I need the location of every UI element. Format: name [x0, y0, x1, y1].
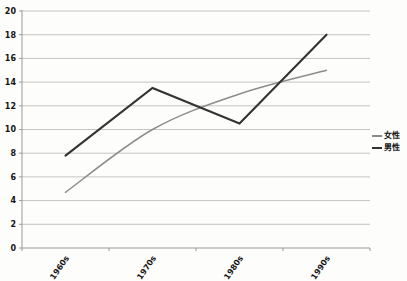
chart-window: 024681012141618201960s1970s1980s1990s 女性…: [0, 0, 407, 281]
svg-text:10: 10: [5, 125, 17, 134]
male-line-marker: [372, 147, 382, 149]
svg-text:6: 6: [10, 173, 16, 182]
svg-text:18: 18: [5, 31, 17, 40]
legend-label-male: 男性: [384, 143, 400, 153]
svg-text:12: 12: [5, 102, 16, 111]
svg-text:16: 16: [5, 54, 17, 63]
svg-text:8: 8: [10, 149, 16, 158]
legend-item-female[interactable]: 女性: [372, 131, 400, 141]
female-line-marker: [372, 135, 382, 137]
line-chart: 024681012141618201960s1970s1980s1990s: [0, 0, 407, 281]
svg-text:20: 20: [5, 7, 17, 16]
legend-label-female: 女性: [384, 131, 400, 141]
legend-item-male[interactable]: 男性: [372, 143, 400, 153]
svg-text:1960s: 1960s: [48, 254, 71, 281]
svg-text:0: 0: [10, 244, 16, 253]
svg-text:1980s: 1980s: [222, 254, 245, 281]
svg-text:2: 2: [10, 220, 16, 229]
svg-text:14: 14: [5, 78, 17, 87]
svg-text:1990s: 1990s: [309, 254, 332, 281]
svg-text:1970s: 1970s: [135, 254, 158, 281]
legend: 女性 男性: [372, 131, 400, 153]
svg-text:4: 4: [10, 196, 16, 205]
